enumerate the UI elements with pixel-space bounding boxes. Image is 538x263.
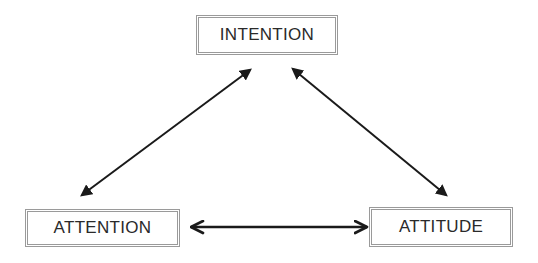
node-attitude-label: ATTITUDE [399,217,483,237]
edge-attention-intention [82,70,250,195]
node-intention-label: INTENTION [220,25,314,45]
edge-intention-attitude [293,69,446,195]
node-intention: INTENTION [196,15,338,55]
node-attention: ATTENTION [25,209,180,247]
node-attitude: ATTITUDE [369,207,513,247]
node-attention-label: ATTENTION [54,218,152,238]
